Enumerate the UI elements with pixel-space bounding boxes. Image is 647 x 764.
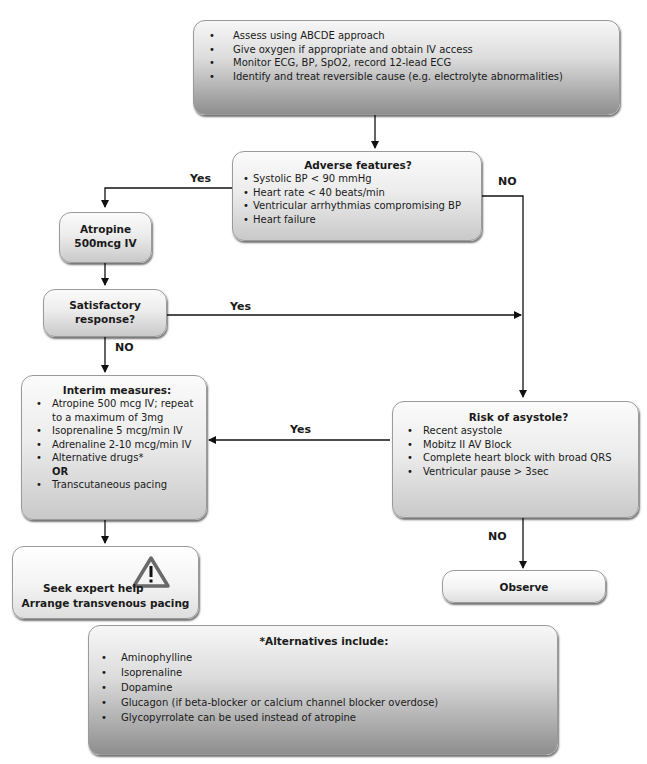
observe-label: Observe — [443, 580, 605, 594]
risk-of-asystole-title: Risk of asystole? — [407, 410, 630, 424]
list-item: •Alternative drugs* — [36, 451, 198, 465]
list-item: •Assess using ABCDE approach — [209, 29, 609, 43]
list-item: •Systolic BP < 90 mmHg — [243, 172, 473, 186]
atropine-label: Atropine — [60, 222, 151, 236]
list-item: •Dopamine — [101, 680, 547, 695]
transvenous-pacing-label: Arrange transvenous pacing — [13, 596, 198, 610]
list-item: •Ventricular arrhythmias compromising BP — [243, 199, 473, 213]
atropine-dose: 500mcg IV — [60, 236, 151, 250]
adverse-yes-label: Yes — [190, 172, 211, 185]
list-item: •Isoprenaline 5 mcg/min IV — [36, 424, 198, 438]
list-item: •Recent asystole — [407, 424, 630, 438]
adverse-no-label: NO — [498, 175, 517, 188]
list-item: •Monitor ECG, BP, SpO2, record 12-lead E… — [209, 56, 609, 70]
list-item: •Isoprenaline — [101, 665, 547, 680]
atropine-box: Atropine 500mcg IV — [59, 212, 152, 263]
list-item: •Transcutaneous pacing — [36, 478, 198, 492]
list-item: •Adrenaline 2-10 mcg/min IV — [36, 438, 198, 452]
satisfactory-no-label: NO — [115, 341, 134, 354]
or-label: OR — [36, 465, 198, 479]
satisfactory-label: Satisfactory — [44, 298, 166, 312]
risk-of-asystole-box: Risk of asystole? •Recent asystole •Mobi… — [392, 401, 639, 518]
list-item: •Glycopyrrolate can be used instead of a… — [101, 710, 547, 725]
satisfactory-response-box: Satisfactory response? — [43, 289, 167, 337]
list-item: •Heart rate < 40 beats/min — [243, 186, 473, 200]
list-item: •Identify and treat reversible cause (e.… — [209, 70, 609, 84]
risk-no-label: NO — [488, 530, 507, 543]
interim-measures-box: Interim measures: •Atropine 500 mcg IV; … — [21, 375, 207, 520]
list-item: •Atropine 500 mcg IV; repeat to a maximu… — [36, 397, 198, 424]
list-item: •Heart failure — [243, 213, 473, 227]
assessment-box: •Assess using ABCDE approach •Give oxyge… — [193, 20, 620, 115]
assessment-list: •Assess using ABCDE approach •Give oxyge… — [209, 29, 609, 83]
observe-box: Observe — [442, 570, 606, 603]
adverse-features-box: Adverse features? •Systolic BP < 90 mmHg… — [232, 151, 482, 241]
seek-expert-help-label: Seek expert help — [43, 581, 144, 595]
alternatives-title: *Alternatives include: — [101, 634, 547, 650]
alternatives-box: *Alternatives include: •Aminophylline •I… — [88, 625, 558, 755]
response-label: response? — [44, 312, 166, 326]
adverse-features-title: Adverse features? — [243, 158, 473, 172]
list-item: •Glucagon (if beta-blocker or calcium ch… — [101, 695, 547, 710]
list-item: •Aminophylline — [101, 650, 547, 665]
list-item: •Mobitz II AV Block — [407, 438, 630, 452]
risk-yes-label: Yes — [290, 423, 311, 436]
list-item: •Ventricular pause > 3sec — [407, 465, 630, 479]
satisfactory-yes-label: Yes — [230, 300, 251, 313]
list-item: •Complete heart block with broad QRS — [407, 451, 630, 465]
seek-expert-help-box: Seek expert help Arrange transvenous pac… — [12, 546, 199, 619]
list-item: •Give oxygen if appropriate and obtain I… — [209, 43, 609, 57]
interim-measures-title: Interim measures: — [36, 383, 198, 397]
